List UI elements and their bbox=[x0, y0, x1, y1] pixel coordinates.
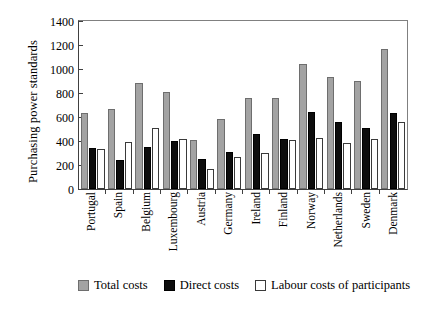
x-axis-label: Denmark bbox=[389, 192, 401, 235]
x-axis-label: Norway bbox=[306, 192, 318, 229]
bar[interactable] bbox=[253, 134, 260, 189]
x-axis-label-cell: Norway bbox=[298, 192, 326, 262]
bar[interactable] bbox=[371, 139, 378, 189]
bar[interactable] bbox=[261, 153, 268, 189]
bar-group bbox=[161, 21, 188, 189]
bar-group bbox=[188, 21, 215, 189]
bar[interactable] bbox=[217, 119, 224, 189]
bar-group bbox=[134, 21, 161, 189]
y-tick-label: 200 bbox=[40, 160, 79, 172]
x-axis-label: Sweden bbox=[361, 192, 373, 228]
x-axis-label: Finland bbox=[279, 192, 291, 227]
bar[interactable] bbox=[144, 147, 151, 189]
x-axis-label: Austria bbox=[196, 192, 208, 226]
y-axis-tick: 0 bbox=[40, 180, 79, 198]
bar[interactable] bbox=[362, 128, 369, 189]
y-tick-label: 1400 bbox=[40, 16, 79, 28]
x-axis-label-cell: Portugal bbox=[78, 192, 106, 262]
bar[interactable] bbox=[152, 128, 159, 189]
y-tick-label: 800 bbox=[40, 88, 79, 100]
bar-group bbox=[243, 21, 270, 189]
bar-group bbox=[216, 21, 243, 189]
bar[interactable] bbox=[198, 159, 205, 189]
y-axis-tick: 600 bbox=[40, 108, 79, 126]
bar[interactable] bbox=[89, 148, 96, 189]
bar[interactable] bbox=[171, 141, 178, 189]
x-axis-label: Portugal bbox=[86, 192, 98, 231]
bar[interactable] bbox=[234, 157, 241, 189]
legend-item[interactable]: Total costs bbox=[78, 278, 148, 293]
bar[interactable] bbox=[327, 77, 334, 189]
legend-item[interactable]: Labour costs of participants bbox=[255, 278, 410, 293]
bar[interactable] bbox=[207, 169, 214, 189]
y-tick-label: 0 bbox=[40, 184, 79, 196]
y-axis-tick: 1200 bbox=[40, 36, 79, 54]
y-axis-tick: 800 bbox=[40, 84, 79, 102]
bar[interactable] bbox=[299, 64, 306, 189]
x-axis-label: Spain bbox=[114, 192, 126, 218]
bar[interactable] bbox=[97, 149, 104, 189]
y-axis-tick: 1000 bbox=[40, 60, 79, 78]
legend-label: Direct costs bbox=[180, 278, 239, 293]
bar[interactable] bbox=[108, 109, 115, 189]
bar-group bbox=[270, 21, 297, 189]
plot-area: 1400120010008006004002000 bbox=[78, 20, 408, 190]
x-axis-label: Belgium bbox=[141, 192, 153, 232]
direct-costs-swatch bbox=[164, 280, 175, 291]
x-axis-label-cell: Germany bbox=[216, 192, 244, 262]
bar[interactable] bbox=[398, 122, 405, 189]
bar[interactable] bbox=[390, 113, 397, 189]
bar[interactable] bbox=[316, 138, 323, 189]
x-axis-label: Luxembourg bbox=[169, 192, 181, 251]
x-axis-label-cell: Ireland bbox=[243, 192, 271, 262]
y-tick-label: 1000 bbox=[40, 64, 79, 76]
bar[interactable] bbox=[135, 83, 142, 189]
x-axis-label-cell: Spain bbox=[106, 192, 134, 262]
x-axis-label-cell: Luxembourg bbox=[161, 192, 189, 262]
bar[interactable] bbox=[280, 139, 287, 189]
x-axis-label-cell: Sweden bbox=[353, 192, 381, 262]
legend-item[interactable]: Direct costs bbox=[164, 278, 239, 293]
bar-group bbox=[325, 21, 352, 189]
bar[interactable] bbox=[190, 140, 197, 189]
x-axis-label-cell: Netherlands bbox=[326, 192, 354, 262]
bar-group bbox=[79, 21, 106, 189]
bar[interactable] bbox=[125, 142, 132, 189]
legend-label: Total costs bbox=[94, 278, 148, 293]
x-axis-label: Germany bbox=[224, 192, 236, 235]
bar[interactable] bbox=[226, 152, 233, 189]
bar[interactable] bbox=[163, 92, 170, 189]
x-axis-label: Netherlands bbox=[334, 192, 346, 248]
x-axis-label-cell: Austria bbox=[188, 192, 216, 262]
total-costs-swatch bbox=[78, 280, 89, 291]
bar[interactable] bbox=[335, 122, 342, 189]
bar[interactable] bbox=[116, 160, 123, 189]
x-axis-label-cell: Belgium bbox=[133, 192, 161, 262]
bar[interactable] bbox=[245, 98, 252, 189]
bar-group bbox=[298, 21, 325, 189]
y-axis-tick: 400 bbox=[40, 132, 79, 150]
y-tick-mark bbox=[79, 189, 83, 190]
bar-group bbox=[352, 21, 379, 189]
bar-group bbox=[106, 21, 133, 189]
bar-group bbox=[380, 21, 407, 189]
bar[interactable] bbox=[343, 143, 350, 189]
y-axis-tick: 1400 bbox=[40, 12, 79, 30]
bar-chart-figure: Purchasing power standards 1400120010008… bbox=[0, 0, 435, 313]
chart-legend: Total costsDirect costsLabour costs of p… bbox=[78, 278, 418, 293]
legend-label: Labour costs of participants bbox=[271, 278, 410, 293]
bar-groups bbox=[79, 21, 407, 189]
bar[interactable] bbox=[381, 49, 388, 189]
bar[interactable] bbox=[354, 81, 361, 189]
x-axis-label-cell: Denmark bbox=[381, 192, 409, 262]
y-axis-title: Purchasing power standards bbox=[26, 17, 41, 207]
x-axis-label-cell: Finland bbox=[271, 192, 299, 262]
bar[interactable] bbox=[179, 139, 186, 189]
x-axis-labels: PortugalSpainBelgiumLuxembourgAustriaGer… bbox=[78, 192, 408, 262]
labour-costs-swatch bbox=[255, 280, 266, 291]
bar[interactable] bbox=[81, 113, 88, 189]
bar[interactable] bbox=[289, 140, 296, 189]
bar[interactable] bbox=[308, 112, 315, 189]
y-tick-label: 1200 bbox=[40, 40, 79, 52]
bar[interactable] bbox=[272, 98, 279, 189]
